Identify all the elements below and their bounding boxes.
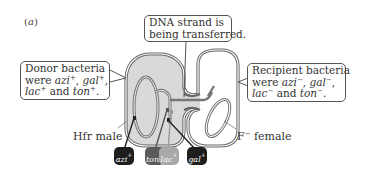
gene-marker-name: azi xyxy=(116,155,128,164)
gene-marker-sign: + xyxy=(172,151,177,158)
callout-line: lac+ and ton+. xyxy=(25,86,105,98)
gene-marker-name: lac xyxy=(161,155,173,164)
callout-line: being transferred. xyxy=(149,29,227,41)
f-minus-female-label: F− female xyxy=(237,130,292,143)
gene-marker-name: gal xyxy=(188,155,200,164)
callout-line: DNA strand is xyxy=(149,17,227,29)
hfr-male-label: Hfr male xyxy=(73,130,122,143)
recipient-callout: Recipient bacteria were azi−, gal−, lac−… xyxy=(247,63,346,102)
gene-marker-gal: gal+ xyxy=(187,147,207,165)
gene-marker-azi: azi+ xyxy=(114,147,134,165)
gene-marker-name: ton xyxy=(146,155,159,164)
gene-marker-lac: lac+ xyxy=(159,147,179,165)
donor-callout: Donor bacteria were azi+, gal+, lac+ and… xyxy=(20,61,110,100)
dna-transfer-callout: DNA strand is being transferred. xyxy=(144,15,232,42)
callout-line: lac− and ton−. xyxy=(252,88,341,100)
gene-marker-sign: + xyxy=(201,151,206,158)
gene-marker-sign: + xyxy=(127,151,132,158)
donor-callout-pointer xyxy=(110,70,126,82)
